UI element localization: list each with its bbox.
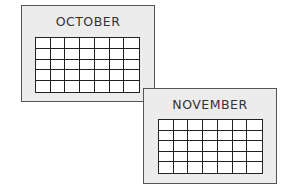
day-cell: [159, 141, 174, 152]
day-cell: [233, 120, 248, 131]
day-cell: [174, 162, 189, 173]
day-cell: [174, 141, 189, 152]
day-cell: [110, 60, 125, 71]
day-cell: [188, 152, 203, 163]
day-cell: [110, 70, 125, 81]
month-grid-october: [35, 37, 140, 93]
day-cell: [110, 38, 125, 49]
day-cell: [218, 131, 233, 142]
day-cell: [203, 141, 218, 152]
day-cell: [233, 141, 248, 152]
day-cell: [95, 70, 110, 81]
day-cell: [247, 120, 262, 131]
day-cell: [247, 141, 262, 152]
day-cell: [36, 49, 51, 60]
day-cell: [218, 152, 233, 163]
day-cell: [174, 131, 189, 142]
day-cell: [80, 81, 95, 92]
day-cell: [124, 60, 139, 71]
day-cell: [124, 38, 139, 49]
day-cell: [36, 38, 51, 49]
day-cell: [203, 152, 218, 163]
day-cell: [36, 81, 51, 92]
calendar-november: NOVEMBER: [143, 88, 277, 184]
day-cell: [247, 152, 262, 163]
day-cell: [80, 70, 95, 81]
day-cell: [80, 38, 95, 49]
day-cell: [65, 38, 80, 49]
day-cell: [159, 120, 174, 131]
day-cell: [188, 162, 203, 173]
day-cell: [80, 49, 95, 60]
day-cell: [124, 70, 139, 81]
day-cell: [51, 49, 66, 60]
day-cell: [51, 70, 66, 81]
day-cell: [51, 60, 66, 71]
day-cell: [188, 120, 203, 131]
day-cell: [124, 49, 139, 60]
day-cell: [233, 162, 248, 173]
day-cell: [95, 81, 110, 92]
day-cell: [110, 81, 125, 92]
day-cell: [159, 131, 174, 142]
day-cell: [203, 131, 218, 142]
day-cell: [203, 162, 218, 173]
day-cell: [233, 131, 248, 142]
day-cell: [95, 60, 110, 71]
day-cell: [36, 70, 51, 81]
day-cell: [218, 120, 233, 131]
day-cell: [188, 141, 203, 152]
day-cell: [80, 60, 95, 71]
day-cell: [233, 152, 248, 163]
day-cell: [51, 81, 66, 92]
day-cell: [124, 81, 139, 92]
day-cell: [247, 162, 262, 173]
day-cell: [218, 162, 233, 173]
day-cell: [188, 131, 203, 142]
day-cell: [247, 131, 262, 142]
day-cell: [65, 81, 80, 92]
day-cell: [203, 120, 218, 131]
day-cell: [65, 60, 80, 71]
day-cell: [65, 70, 80, 81]
month-title-october: OCTOBER: [22, 14, 154, 29]
day-cell: [36, 60, 51, 71]
day-cell: [218, 141, 233, 152]
day-cell: [174, 152, 189, 163]
day-cell: [51, 38, 66, 49]
day-cell: [159, 162, 174, 173]
day-cell: [65, 49, 80, 60]
day-cell: [95, 49, 110, 60]
month-title-november: NOVEMBER: [144, 97, 276, 112]
day-cell: [174, 120, 189, 131]
day-cell: [159, 152, 174, 163]
calendar-october: OCTOBER: [21, 5, 155, 102]
day-cell: [110, 49, 125, 60]
day-cell: [95, 38, 110, 49]
month-grid-november: [158, 119, 263, 174]
